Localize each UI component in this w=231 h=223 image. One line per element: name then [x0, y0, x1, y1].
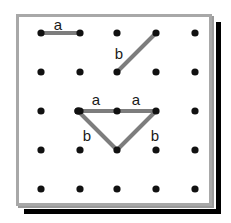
peg-r4-c5[interactable]: [191, 146, 198, 153]
peg-r5-c1[interactable]: [37, 185, 44, 192]
label-triangle-right-a: a: [132, 92, 140, 107]
peg-r3-c3[interactable]: [113, 107, 120, 114]
peg-r1-c4[interactable]: [152, 29, 159, 36]
peg-r5-c4[interactable]: [152, 185, 159, 192]
peg-r5-c2[interactable]: [76, 185, 83, 192]
label-triangle-left-b: b: [83, 128, 91, 143]
label-triangle-left-a: a: [92, 92, 100, 107]
peg-r3-c5[interactable]: [191, 107, 198, 114]
peg-r4-c1[interactable]: [37, 146, 44, 153]
peg-r1-c5[interactable]: [191, 29, 198, 36]
geoboard-canvas: [0, 0, 231, 223]
peg-r4-c3[interactable]: [113, 146, 120, 153]
peg-r4-c4[interactable]: [152, 146, 159, 153]
peg-r2-c2[interactable]: [76, 68, 83, 75]
peg-r2-c1[interactable]: [37, 68, 44, 75]
label-diagonal-b: b: [115, 46, 123, 61]
peg-r1-c2[interactable]: [76, 29, 83, 36]
peg-r1-c1[interactable]: [37, 29, 44, 36]
peg-r3-c1[interactable]: [37, 107, 44, 114]
peg-r2-c5[interactable]: [191, 68, 198, 75]
peg-r3-c4[interactable]: [152, 107, 159, 114]
peg-r2-c4[interactable]: [152, 68, 159, 75]
peg-r1-c3[interactable]: [113, 29, 120, 36]
label-triangle-right-b: b: [151, 128, 159, 143]
peg-r4-c2[interactable]: [76, 146, 83, 153]
vertex-peg[interactable]: [74, 107, 81, 114]
peg-r5-c5[interactable]: [191, 185, 198, 192]
geoboard-figure: abaabb: [0, 0, 231, 223]
label-top-a: a: [54, 17, 62, 32]
peg-r2-c3[interactable]: [113, 68, 120, 75]
peg-r5-c3[interactable]: [113, 185, 120, 192]
